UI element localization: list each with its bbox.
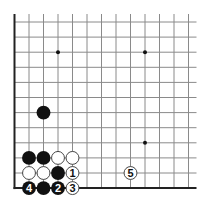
go-board: 14235 <box>0 0 207 197</box>
black-stone-move-2: 2 <box>51 181 65 195</box>
white-stone <box>23 167 36 180</box>
stones-layer: 14235 <box>22 106 137 195</box>
move-number-label: 3 <box>69 182 75 194</box>
white-stone-icon <box>37 167 50 180</box>
white-stone-move-5: 5 <box>124 167 137 180</box>
black-stone <box>51 166 65 180</box>
black-stone-icon <box>51 166 65 180</box>
black-stone-icon <box>37 151 51 165</box>
black-stone <box>37 106 51 120</box>
black-stone <box>37 181 51 195</box>
star-point-icon <box>143 50 147 54</box>
white-stone <box>66 151 79 164</box>
white-stone-move-3: 3 <box>66 182 79 195</box>
black-stone <box>22 151 36 165</box>
star-point-icon <box>143 141 147 145</box>
black-stone-icon <box>37 181 51 195</box>
move-number-label: 2 <box>55 182 61 194</box>
move-number-label: 5 <box>127 167 133 179</box>
white-stone-icon <box>66 151 79 164</box>
move-number-label: 4 <box>26 182 33 194</box>
black-stone <box>37 151 51 165</box>
white-stone-icon <box>23 167 36 180</box>
white-stone-icon <box>52 151 65 164</box>
star-point-icon <box>56 50 60 54</box>
black-stone-move-4: 4 <box>22 181 36 195</box>
white-stone-move-1: 1 <box>66 167 79 180</box>
black-stone-icon <box>37 106 51 120</box>
move-number-label: 1 <box>69 167 75 179</box>
black-stone-icon <box>22 151 36 165</box>
white-stone <box>37 167 50 180</box>
white-stone <box>52 151 65 164</box>
